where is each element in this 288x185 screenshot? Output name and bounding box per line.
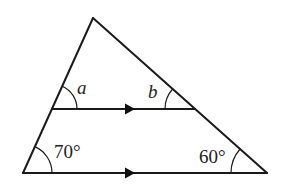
angle-label-60: 60° bbox=[199, 146, 226, 167]
angle-label-70: 70° bbox=[54, 141, 81, 162]
angle-label-a: a bbox=[77, 77, 87, 98]
right-side bbox=[93, 18, 267, 173]
angle-arc-70 bbox=[35, 147, 52, 173]
angle-arc-b bbox=[165, 89, 173, 109]
parallel-arrow-icon-middle bbox=[125, 104, 135, 115]
angle-arc-a bbox=[62, 86, 77, 109]
triangle-diagram: a b 70° 60° bbox=[0, 0, 288, 185]
angle-label-b: b bbox=[148, 81, 158, 102]
parallel-arrow-icon-base bbox=[125, 168, 135, 179]
angle-arc-60 bbox=[231, 149, 240, 173]
